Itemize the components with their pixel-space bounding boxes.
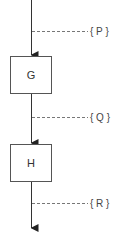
flow-diagram: { P } G { Q } H { R } — [0, 0, 118, 244]
flow-label-r: { R } — [90, 198, 110, 209]
node-label-h: H — [27, 157, 35, 169]
flow-label-q: { Q } — [90, 112, 111, 123]
node-label-g: G — [27, 69, 36, 81]
flow-label-p: { P } — [90, 26, 109, 37]
